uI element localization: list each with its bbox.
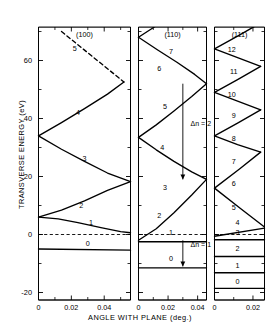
- curve-label-3: 3: [232, 228, 244, 237]
- curve-label-1: 1: [165, 228, 177, 237]
- x-tick-label: 0: [126, 303, 152, 312]
- x-tick-label: 0.02: [240, 303, 266, 312]
- curve-label-0: 0: [232, 277, 244, 286]
- x-tick-label: 0.02: [155, 303, 181, 312]
- curve-label-4: 4: [72, 108, 84, 117]
- curve-label-2: 2: [75, 201, 87, 210]
- curve-label-7: 7: [228, 157, 240, 166]
- curve-label-5: 5: [228, 203, 240, 212]
- x-ticks-0: [39, 27, 121, 300]
- curve-(100)-2: [39, 182, 131, 217]
- annotation-label: Δn = 1: [184, 241, 218, 248]
- x-tick-label: 0: [26, 303, 52, 312]
- panel-frame-0: [39, 27, 131, 300]
- curve-(100)-0: [39, 249, 131, 250]
- panel-frame-top-0: [39, 27, 131, 300]
- figure-canvas: TRANSVERSE ENERGY (eV) ANGLE WITH PLANE …: [0, 0, 273, 333]
- panel-title-(100): (100): [63, 30, 107, 39]
- curve-label-4: 4: [156, 143, 168, 152]
- x-axis-label: ANGLE WITH PLANE (deg.): [88, 313, 192, 322]
- curve-(110)-3: [139, 137, 207, 179]
- top-clip-mask: [0, 0, 273, 27]
- curve-label-9: 9: [228, 111, 240, 120]
- curve-(110)-4: [139, 84, 207, 138]
- curve-label-10: 10: [226, 90, 238, 99]
- annotation-label: Δn = 2: [184, 120, 218, 127]
- curve-label-6: 6: [228, 179, 240, 188]
- x-tick-label: 0.04: [91, 303, 117, 312]
- curve-label-2: 2: [232, 244, 244, 253]
- x-tick-label: 0: [202, 303, 228, 312]
- y-axis-label: TRANSVERSE ENERGY (eV): [17, 90, 26, 220]
- curve-label-11: 11: [228, 67, 240, 76]
- curve-label-3: 3: [159, 183, 171, 192]
- curve-label-3: 3: [79, 154, 91, 163]
- curve-label-0: 0: [165, 254, 177, 263]
- curve-label-2: 2: [153, 211, 165, 220]
- curve-label-1: 1: [232, 261, 244, 270]
- curve-label-12: 12: [226, 45, 238, 54]
- curve-label-1: 1: [85, 218, 97, 227]
- panel-title-(111): (111): [218, 30, 262, 39]
- panel-title-(110): (110): [151, 30, 195, 39]
- y-tick-label: 40: [10, 114, 32, 123]
- curve-(110)-5: [139, 37, 207, 83]
- x-tick-label: 0.02: [58, 303, 84, 312]
- y-tick-label: -20: [10, 288, 32, 297]
- curve-label-6: 6: [153, 64, 165, 73]
- y-tick-label: 60: [10, 56, 32, 65]
- curve-label-0: 0: [82, 239, 94, 248]
- y-tick-label: 0: [10, 230, 32, 239]
- curve-label-5: 5: [69, 44, 81, 53]
- curve-label-7: 7: [165, 47, 177, 56]
- curve-label-5: 5: [159, 102, 171, 111]
- curve-label-4: 4: [232, 218, 244, 227]
- y-tick-label: 20: [10, 172, 32, 181]
- curve-label-8: 8: [228, 134, 240, 143]
- curve-(100)-5: [62, 32, 124, 82]
